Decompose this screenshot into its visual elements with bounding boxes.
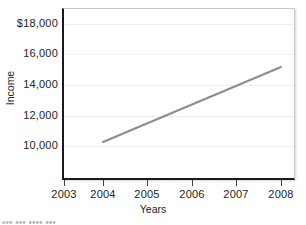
gridline-16000	[64, 54, 294, 55]
y-tick-label-10000: 10,000	[23, 139, 58, 151]
plot-area	[62, 8, 295, 180]
y-tick-label-16000: 16,000	[23, 47, 58, 59]
x-tick-mark-2005	[147, 180, 148, 186]
y-tick-label-18000: $18,000	[17, 17, 58, 29]
x-tick-mark-2006	[192, 180, 193, 186]
x-tick-label-2008: 2008	[268, 188, 293, 200]
gridline-18000	[64, 24, 294, 25]
y-tick-label-12000: 12,000	[23, 109, 58, 121]
gridline-12000	[64, 116, 294, 117]
y-axis-title: Income	[4, 58, 16, 118]
x-tick-label-2006: 2006	[179, 188, 204, 200]
x-tick-mark-2003	[64, 180, 65, 186]
gridline-10000	[64, 146, 294, 147]
x-axis-title: Years	[0, 203, 306, 215]
y-tick-label-14000: 14,000	[23, 78, 58, 90]
x-tick-label-2003: 2003	[51, 188, 76, 200]
gridline-14000	[64, 85, 294, 86]
x-tick-label-2004: 2004	[90, 188, 115, 200]
x-tick-label-2005: 2005	[134, 188, 159, 200]
x-tick-label-2007: 2007	[223, 188, 248, 200]
income-by-year-line-chart: $18,000 16,000 14,000 12,000 10,000 2003…	[0, 0, 306, 225]
x-tick-mark-2008	[281, 180, 282, 186]
clipped-caption-text: ••• ••• •••• •••	[2, 217, 192, 225]
x-tick-mark-2007	[236, 180, 237, 186]
x-tick-mark-2004	[103, 180, 104, 186]
